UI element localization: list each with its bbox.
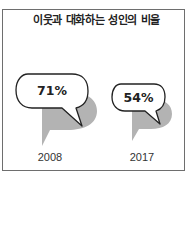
value-label-2008: 71% [16, 83, 88, 98]
value-label-2017: 54% [112, 90, 165, 105]
category-label-2017: 2017 [112, 151, 172, 163]
category-label-2008: 2008 [20, 151, 80, 163]
